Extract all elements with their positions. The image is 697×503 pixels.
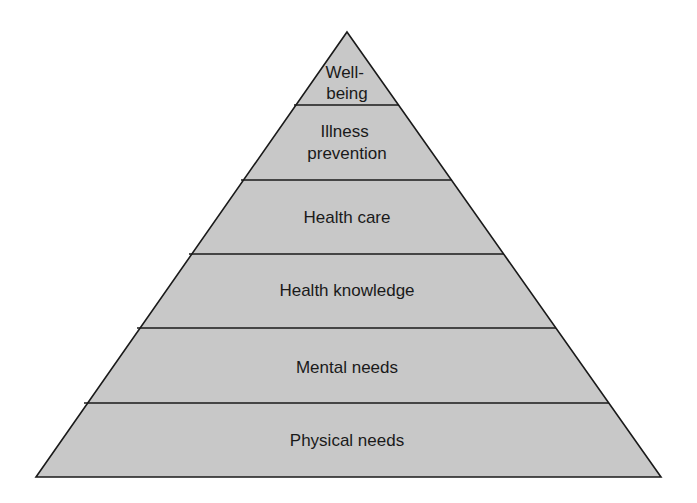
level-health-care-label: Health care <box>304 208 391 227</box>
level-health-knowledge-label: Health knowledge <box>279 281 414 300</box>
level-physical-needs-label: Physical needs <box>290 431 404 450</box>
health-pyramid-diagram: Well- being Illness prevention Health ca… <box>0 0 697 503</box>
level-mental-needs-label: Mental needs <box>296 358 398 377</box>
